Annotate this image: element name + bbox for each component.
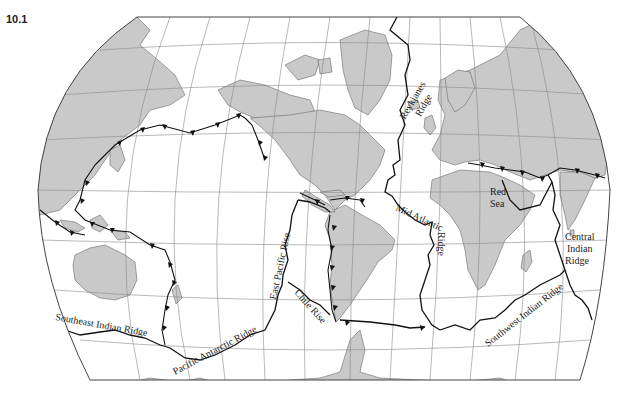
label-southwest-indian-ridge: Southwest Indian Ridge	[482, 280, 565, 348]
label-east-pacific-rise: East Pacific Rise	[267, 231, 292, 300]
label-central-indian-ridge: Central Indian Ridge	[565, 231, 597, 266]
scotia-ridge	[340, 320, 425, 328]
label-mid-atlantic-ridge: Ridge	[436, 232, 447, 256]
mid-atlantic-ridge	[385, 17, 440, 330]
indian-east-branch	[565, 270, 592, 320]
label-mid-atlantic: Mid Atlantic	[394, 202, 445, 234]
land-arctic-islands	[285, 55, 320, 80]
label-chile-rise: Chile Rise	[293, 287, 330, 326]
land-north-america	[250, 110, 385, 210]
land-india	[560, 172, 595, 230]
world-plate-map: Reykjanes Ridge Red Sea Mid Atlantic Rid…	[0, 0, 624, 406]
land-se-asia	[60, 220, 85, 232]
land-masses	[30, 17, 610, 406]
land-british-isles	[424, 115, 436, 135]
land-south-america	[325, 205, 395, 322]
land-africa	[430, 170, 535, 290]
label-southeast-indian-ridge: Southeast Indian Ridge	[55, 311, 149, 338]
land-japan	[110, 145, 125, 172]
map-body	[30, 17, 612, 406]
land-madagascar	[521, 250, 532, 272]
